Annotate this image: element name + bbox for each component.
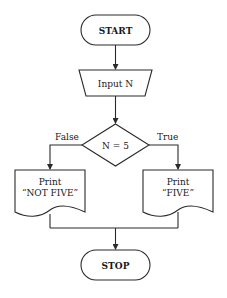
true-branch-label: True xyxy=(157,132,178,142)
connector-true-branch xyxy=(149,145,178,169)
stop-label: STOP xyxy=(102,261,130,271)
print-five-line1: Print xyxy=(167,177,190,187)
start-node: START xyxy=(81,15,150,45)
false-branch-label: False xyxy=(55,132,79,142)
print-five-line2: “FIVE” xyxy=(162,188,194,198)
flowchart-canvas: START Input N N = 5 False True Print “NO… xyxy=(0,0,227,298)
decision-node: N = 5 xyxy=(82,124,149,166)
print-not-five-line1: Print xyxy=(39,177,62,187)
stop-node: STOP xyxy=(81,250,150,280)
decision-label: N = 5 xyxy=(102,141,129,151)
print-five-node: Print “FIVE” xyxy=(143,170,213,216)
input-node: Input N xyxy=(79,70,152,96)
input-label: Input N xyxy=(98,79,133,89)
start-label: START xyxy=(99,26,133,36)
connector-false-branch xyxy=(50,145,82,169)
print-not-five-line2: “NOT FIVE” xyxy=(22,188,78,198)
print-not-five-node: Print “NOT FIVE” xyxy=(15,170,85,216)
